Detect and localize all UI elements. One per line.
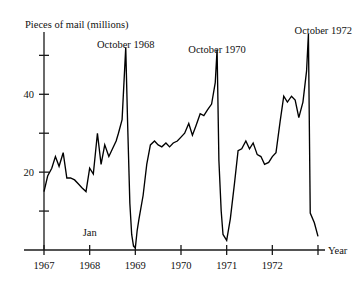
mail-volume-line [44,34,318,248]
y-axis-group: 2040 [24,32,50,250]
annotation-october-1968: October 1968 [97,39,154,50]
x-axis-title: Year [328,245,348,256]
x-tick-label-1972: 1972 [262,260,283,271]
y-axis-tick-labels: 2040 [24,89,35,178]
x-axis-tick-labels: 196719681969197019711972 [34,260,283,271]
chart-svg: 2040 196719681969197019711972 Pieces of … [0,0,355,286]
x-tick-label-1968: 1968 [79,260,100,271]
mail-volume-chart: 2040 196719681969197019711972 Pieces of … [0,0,355,286]
annotation-october-1970: October 1970 [188,44,245,55]
y-tick-label-20: 20 [24,167,35,178]
x-tick-label-1970: 1970 [171,260,192,271]
y-axis-title: Pieces of mail (millions) [25,19,129,31]
x-tick-label-1971: 1971 [216,260,237,271]
x-tick-label-1969: 1969 [125,260,146,271]
annotation-october-1972: October 1972 [295,25,352,36]
y-tick-label-40: 40 [24,89,35,100]
annotation-jan: Jan [83,227,98,238]
x-axis-group: 196719681969197019711972 [24,245,325,271]
x-tick-label-1967: 1967 [34,260,55,271]
